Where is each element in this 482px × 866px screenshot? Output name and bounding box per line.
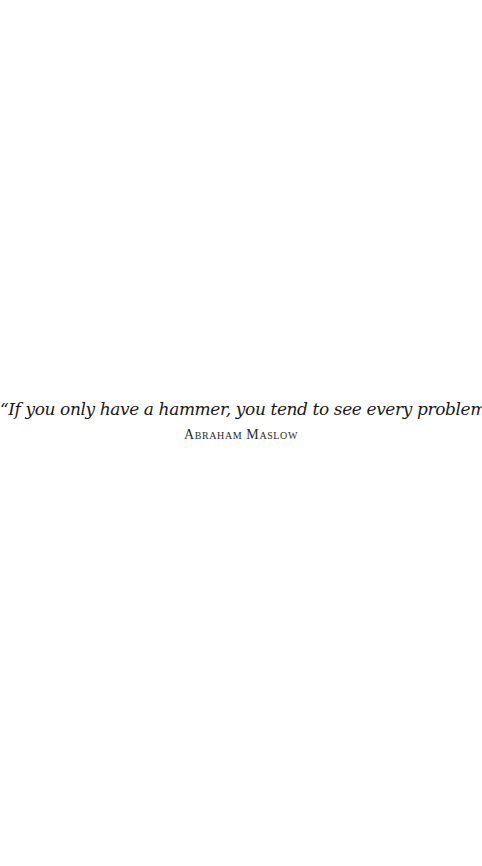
quote-text: “If you only have a hammer, you tend to … bbox=[0, 395, 482, 423]
quote-author: Abraham Maslow bbox=[0, 427, 482, 443]
quote-block: “If you only have a hammer, you tend to … bbox=[0, 395, 482, 443]
